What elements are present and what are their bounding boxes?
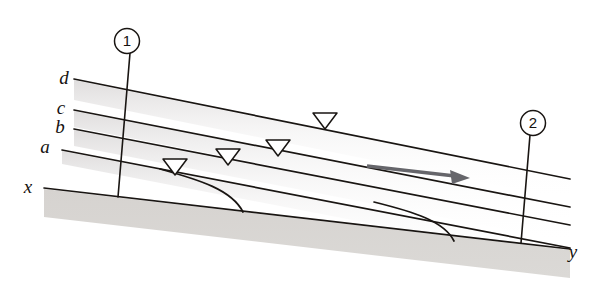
figure-canvas: 1 2 d c b a x y xyxy=(0,0,608,292)
free-surface-triangle-d xyxy=(313,113,337,129)
label-profile-b: b xyxy=(55,116,65,137)
label-profile-c: c xyxy=(57,97,66,118)
label-bed-start-x: x xyxy=(23,176,33,197)
label-profile-d: d xyxy=(59,67,69,88)
section-2-label: 2 xyxy=(529,114,537,131)
label-profile-a: a xyxy=(40,136,50,157)
label-bed-end-y: y xyxy=(567,241,578,262)
section-1-label: 1 xyxy=(123,32,131,49)
flow-profile-figure: 1 2 d c b a x y xyxy=(0,0,608,292)
